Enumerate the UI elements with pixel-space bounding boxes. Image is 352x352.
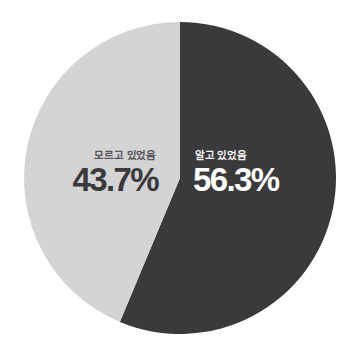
pie-chart-svg bbox=[0, 0, 352, 352]
pie-chart-figure: 모르고 있었음 43.7% 알고 있었음 56.3% bbox=[0, 0, 352, 352]
